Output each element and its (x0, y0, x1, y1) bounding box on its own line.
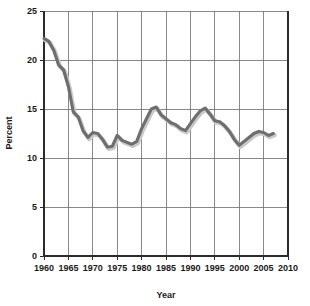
x-tick-label: 1980 (132, 263, 152, 273)
line-chart: 0510152025 19601965197019751980198519901… (0, 0, 310, 306)
x-tick-label: 1975 (107, 263, 127, 273)
x-tick-label: 2010 (278, 263, 298, 273)
x-tick-label: 1995 (205, 263, 225, 273)
y-tick-label: 0 (32, 251, 37, 261)
x-tick-label: 2000 (229, 263, 249, 273)
y-axis-title: Percent (4, 116, 14, 149)
x-tick-label: 1970 (83, 263, 103, 273)
x-tick-labels: 1960196519701975198019851990199520002005… (34, 263, 298, 273)
x-tick-label: 2005 (254, 263, 274, 273)
x-tick-label: 1990 (180, 263, 200, 273)
y-tick-label: 10 (27, 153, 37, 163)
y-tick-label: 5 (32, 202, 37, 212)
chart-container: 0510152025 19601965197019751980198519901… (0, 0, 310, 306)
x-axis-title: Year (156, 290, 176, 300)
y-tick-label: 20 (27, 55, 37, 65)
x-tick-label: 1960 (34, 263, 54, 273)
x-tick-label: 1965 (58, 263, 78, 273)
y-tick-label: 25 (27, 6, 37, 16)
x-tick-label: 1985 (156, 263, 176, 273)
y-tick-label: 15 (27, 104, 37, 114)
